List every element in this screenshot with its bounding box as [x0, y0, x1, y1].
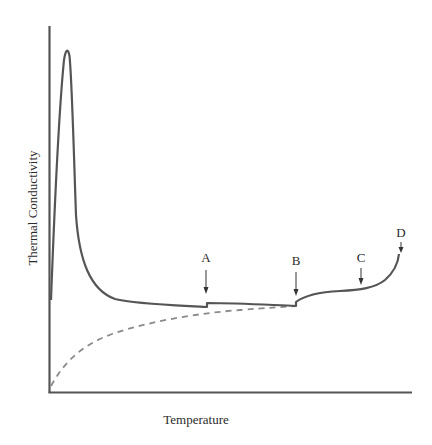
marker-label-c: C: [357, 250, 366, 266]
solid-conductivity-curve: [51, 51, 399, 307]
marker-label-a: A: [201, 250, 210, 266]
marker-label-d: D: [396, 225, 405, 241]
x-axis-label: Temperature: [163, 412, 229, 428]
arrow-d-icon: [399, 242, 404, 253]
y-axis-label: Thermal Conductivity: [25, 150, 41, 265]
thermal-conductivity-diagram: Thermal Conductivity Temperature A B C D: [0, 0, 432, 445]
plot-area: [0, 0, 432, 445]
marker-label-b: B: [292, 253, 301, 269]
arrow-b-icon: [294, 272, 299, 296]
arrow-c-icon: [359, 268, 364, 285]
arrow-a-icon: [204, 270, 209, 294]
dashed-baseline-curve: [51, 306, 296, 386]
